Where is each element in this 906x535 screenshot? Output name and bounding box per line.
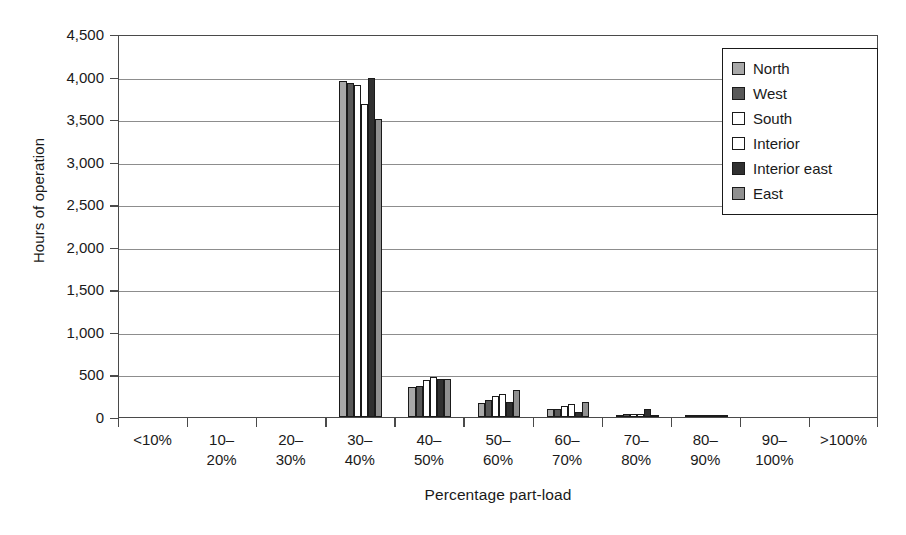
y-axis-tick-label: 3,500: [0, 112, 104, 127]
y-axis-tick-label: 1,000: [0, 325, 104, 340]
bar: [623, 414, 630, 417]
x-axis-tick-mark: [256, 418, 257, 427]
x-axis-tick-label-line: 60–: [533, 430, 602, 450]
bar: [582, 402, 589, 417]
bar: [368, 78, 375, 417]
legend: NorthWestSouthInteriorInterior eastEast: [722, 48, 878, 215]
bar: [637, 414, 644, 417]
y-axis-tick-mark: [110, 248, 118, 249]
y-axis-tick-mark: [110, 205, 118, 206]
x-axis-title: Percentage part-load: [118, 486, 878, 504]
x-axis-category-labels: <10%10–20%20–30%30–40%40–50%50–60%60–70%…: [118, 430, 878, 486]
x-axis-tick-mark: [671, 418, 672, 427]
y-axis-tick-label: 500: [0, 367, 104, 382]
y-axis-tick-mark: [110, 290, 118, 291]
bar: [630, 414, 637, 417]
legend-item[interactable]: South: [732, 106, 868, 131]
legend-swatch: [732, 137, 745, 150]
x-axis-tick-mark: [325, 418, 326, 427]
legend-item[interactable]: East: [732, 181, 868, 206]
bar: [721, 415, 728, 417]
y-axis-tick-mark: [110, 163, 118, 164]
bar: [644, 409, 651, 417]
x-axis-tick-label: 50–60%: [463, 430, 532, 469]
y-axis-tick-mark: [110, 120, 118, 121]
x-axis-tick-mark: [533, 418, 534, 427]
legend-label: East: [753, 186, 783, 201]
y-axis-tick-mark: [110, 35, 118, 36]
x-axis-tick-mark: [740, 418, 741, 427]
legend-swatch: [732, 187, 745, 200]
x-axis-tick-label: 30–40%: [325, 430, 394, 469]
x-axis-tick-label: 90–100%: [740, 430, 809, 469]
x-axis-tick-mark: [187, 418, 188, 427]
bar: [568, 404, 575, 417]
x-axis-tick-label-line: 20–: [256, 430, 325, 450]
x-axis-tick-mark: [602, 418, 603, 427]
y-axis-tick-label: 1,500: [0, 282, 104, 297]
y-axis-tick-label: 2,000: [0, 240, 104, 255]
x-axis-tick-label-line: 80%: [602, 450, 671, 470]
legend-label: Interior: [753, 136, 800, 151]
x-axis-tick-label: 70–80%: [602, 430, 671, 469]
bar: [651, 415, 658, 417]
x-axis-tick-mark: [463, 418, 464, 427]
legend-item[interactable]: Interior east: [732, 156, 868, 181]
x-axis-tick-label-line: 60%: [463, 450, 532, 470]
bar: [375, 119, 382, 417]
legend-item[interactable]: Interior: [732, 131, 868, 156]
bar: [492, 396, 499, 417]
x-axis-tick-label: 80–90%: [671, 430, 740, 469]
legend-label: West: [753, 86, 787, 101]
x-axis-tick-label: >100%: [809, 430, 878, 450]
legend-label: North: [753, 61, 790, 76]
bar: [499, 394, 506, 417]
x-axis-tick-label-line: >100%: [809, 430, 878, 450]
x-axis-tick-label-line: 50%: [394, 450, 463, 470]
y-axis-tick-label: 3,000: [0, 155, 104, 170]
y-axis-tick-label: 2,500: [0, 197, 104, 212]
x-axis-tick-label: 10–20%: [187, 430, 256, 469]
bar: [692, 415, 699, 417]
x-axis-tick-label-line: 90%: [671, 450, 740, 470]
bar: [408, 387, 415, 417]
bar: [437, 379, 444, 417]
bar: [423, 380, 430, 417]
x-axis-tick-mark: [877, 418, 878, 427]
bar: [685, 415, 692, 417]
bar: [478, 403, 485, 417]
bar: [430, 377, 437, 417]
legend-item[interactable]: North: [732, 56, 868, 81]
x-axis-tick-label-line: 80–: [671, 430, 740, 450]
legend-label: South: [753, 111, 792, 126]
legend-swatch: [732, 62, 745, 75]
x-axis-tick-label-line: <10%: [118, 430, 187, 450]
y-axis-tick-label: 4,500: [0, 27, 104, 42]
legend-item[interactable]: West: [732, 81, 868, 106]
y-axis-tick-mark: [110, 333, 118, 334]
bar: [706, 415, 713, 417]
x-axis-tick-label: 40–50%: [394, 430, 463, 469]
x-axis-tick-label: <10%: [118, 430, 187, 450]
bar: [347, 83, 354, 417]
bar: [575, 412, 582, 417]
x-axis-tick-label-line: 90–: [740, 430, 809, 450]
legend-label: Interior east: [753, 161, 832, 176]
legend-swatch: [732, 112, 745, 125]
y-axis-tick-label: 4,000: [0, 70, 104, 85]
x-axis-tick-label-line: 30–: [325, 430, 394, 450]
bar-chart: Hours of operation 05001,0001,5002,0002,…: [0, 0, 906, 535]
y-axis-tick-mark: [110, 375, 118, 376]
bar: [713, 415, 720, 417]
x-axis-tick-mark: [394, 418, 395, 427]
x-axis-tick-mark: [118, 418, 119, 427]
x-axis-tick-label: 60–70%: [533, 430, 602, 469]
x-axis-tick-label-line: 100%: [740, 450, 809, 470]
bar: [561, 406, 568, 417]
bar: [616, 415, 623, 417]
legend-swatch: [732, 87, 745, 100]
bar: [339, 81, 346, 417]
y-axis-tick-mark: [110, 418, 118, 419]
y-axis-tick-label: 0: [0, 410, 104, 425]
x-axis-tick-mark: [809, 418, 810, 427]
